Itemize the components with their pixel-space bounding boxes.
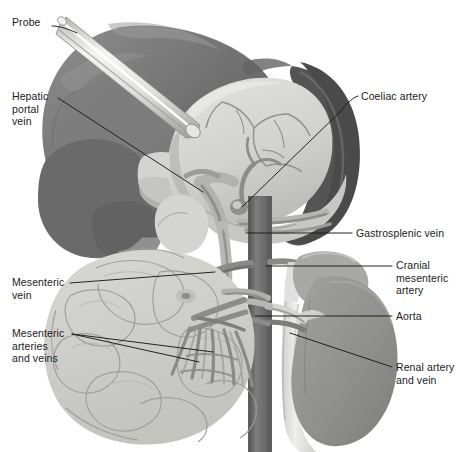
- label-aorta: Aorta: [396, 310, 422, 323]
- label-gastrosplenic-vein: Gastrosplenic vein: [356, 227, 444, 240]
- anatomical-illustration-figure: Probe Hepatic portal vein Mesenteric vei…: [0, 0, 467, 452]
- label-mesenteric-vein: Mesenteric vein: [12, 276, 64, 301]
- label-hepatic-portal-vein: Hepatic portal vein: [12, 90, 48, 128]
- label-coeliac-artery: Coeliac artery: [361, 90, 427, 103]
- label-renal-artery-and-vein: Renal artery and vein: [396, 361, 454, 386]
- label-mesenteric-arteries-and-veins: Mesenteric arteries and veins: [12, 327, 64, 365]
- small-intestine: [44, 249, 256, 445]
- label-cranial-mesenteric-artery: Cranial mesenteric artery: [396, 259, 448, 297]
- label-probe: Probe: [12, 16, 41, 29]
